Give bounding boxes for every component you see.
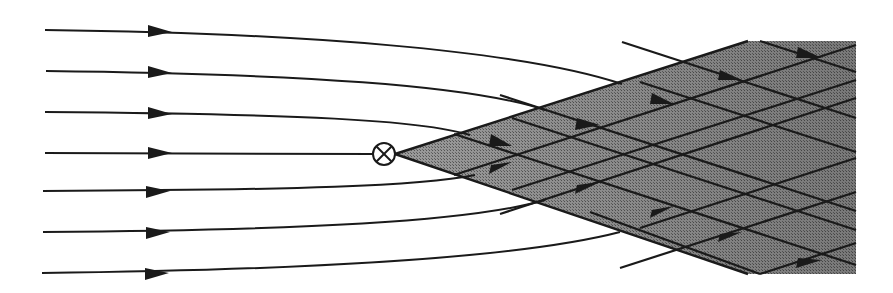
streamline-1 — [45, 30, 622, 84]
arrow-icon — [148, 147, 172, 159]
arrow-icon — [146, 186, 170, 198]
arrow-icon — [148, 25, 172, 37]
circled-x-icon — [373, 143, 395, 165]
arrow-icon — [146, 227, 170, 239]
streamline-2 — [46, 71, 545, 110]
arrow-icon — [148, 107, 172, 119]
arrow-icon — [145, 268, 169, 280]
streamline-4 — [45, 153, 373, 154]
flow-diagram — [0, 0, 893, 293]
streamline-5 — [43, 175, 475, 191]
streamline-7 — [42, 232, 620, 273]
arrow-icon — [148, 66, 172, 78]
shaded-wedge-region — [395, 41, 856, 274]
streamline-6 — [43, 200, 545, 232]
streamline-3 — [45, 112, 470, 135]
